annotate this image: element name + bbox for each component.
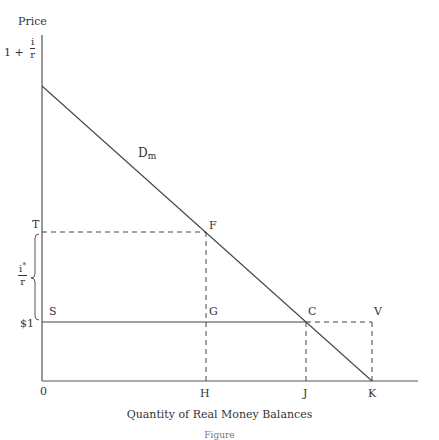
y-bracket-label: i* r: [18, 262, 27, 287]
x-tick-j: J: [303, 388, 307, 399]
point-g: G: [209, 306, 218, 317]
fraction-denominator: r: [20, 276, 25, 287]
y-tick-top-fraction: i r: [30, 37, 35, 60]
point-c: C: [308, 306, 316, 317]
x-tick-h: H: [200, 388, 210, 399]
x-axis-label: Quantity of Real Money Balances: [0, 408, 439, 421]
curve-label-sub: m: [148, 151, 157, 161]
point-s: S: [49, 306, 57, 317]
bracket-sup: *: [22, 261, 26, 270]
fraction-denominator: r: [30, 49, 35, 60]
demand-curve-dm: [42, 86, 372, 381]
point-v: V: [374, 306, 382, 317]
y-axis-label: Price: [18, 16, 47, 27]
curve-label-main: D: [138, 146, 148, 160]
y-tick-top-prefix: 1 +: [4, 46, 24, 59]
brace-icon: [31, 234, 39, 320]
fraction-numerator: i: [30, 37, 35, 49]
x-tick-origin: 0: [40, 386, 47, 397]
y-tick-t: T: [32, 219, 39, 230]
point-f: F: [209, 220, 217, 231]
y-tick-dollar-one: $1: [20, 318, 34, 329]
curve-label-dm: Dm: [138, 146, 156, 161]
figure-caption: Figure: [0, 430, 439, 440]
x-tick-k: K: [368, 388, 376, 399]
fraction-numerator: i*: [18, 262, 27, 276]
